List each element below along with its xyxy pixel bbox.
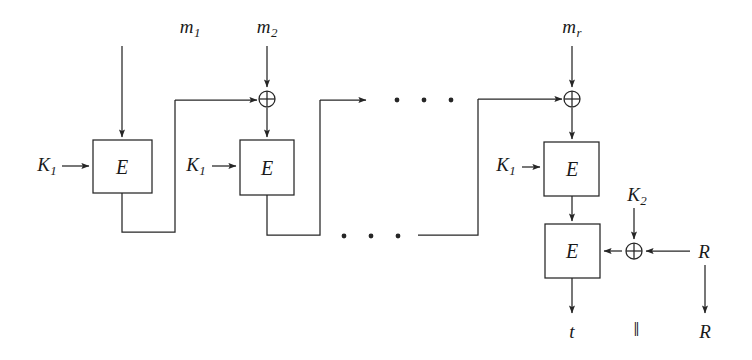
- label-cipher-e3: E: [566, 159, 578, 179]
- ellipsis-lower: [342, 234, 401, 239]
- label-random-input: R: [698, 242, 710, 261]
- wire-block1-feedback: [122, 100, 175, 232]
- label-cipher-e1: E: [116, 157, 128, 177]
- label-output-random: R: [699, 322, 711, 341]
- cbc-mac-diagram: m1 m2 mr K1 K1 K1 K2 E E E E R t ‖ R: [0, 0, 752, 360]
- ellipsis-upper: [395, 98, 454, 103]
- xor-gate-1: [259, 91, 275, 107]
- label-output-tag: t: [569, 322, 574, 341]
- label-key-2: K2: [627, 185, 647, 208]
- diagram-wires: [0, 0, 752, 360]
- label-message-r: mr: [562, 17, 581, 40]
- label-message-1: m1: [180, 17, 201, 40]
- xor-gate-3: [626, 243, 642, 259]
- label-concat-operator: ‖: [634, 319, 641, 340]
- label-key-1a: K1: [37, 155, 57, 178]
- xor-gate-2: [564, 91, 580, 107]
- label-key-1c: K1: [496, 155, 516, 178]
- label-cipher-e2: E: [261, 158, 273, 178]
- label-cipher-e4: E: [566, 241, 578, 261]
- label-message-2: m2: [257, 17, 278, 40]
- wire-chain-to-last-block: [418, 99, 478, 235]
- label-key-1b: K1: [186, 155, 206, 178]
